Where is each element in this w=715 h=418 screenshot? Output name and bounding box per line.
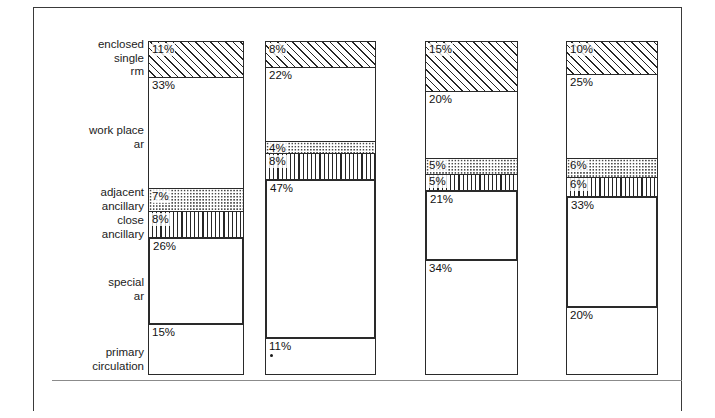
bar-1-segment-work-place-ar[interactable]: 33% [148,77,244,189]
segment-fill-plain [149,78,243,188]
bar-2-segment-work-place-ar[interactable]: 22% [265,67,376,142]
segment-value-label: 33% [152,79,176,92]
segment-value-label: 33% [571,199,595,212]
bar-4-segment-close-ancillary[interactable]: 6% [566,177,658,197]
bar-1-segment-close-ancillary[interactable]: 8% [148,211,244,238]
segment-value-label: 15% [429,43,453,56]
segment-value-label: 15% [152,326,176,339]
bar-2-segment-enclosed-single-rm[interactable]: 8% [265,41,376,68]
stacked-bar-plot: 11%33%7%8%26%15%8%22%4%8%47%11%15%20%5%5… [0,0,715,418]
segment-value-label: 11% [152,43,175,56]
bar-3-segment-primary-circulation[interactable]: 34% [425,260,518,375]
segment-value-label: 6% [570,159,588,172]
segment-value-label: 8% [269,155,287,168]
segment-value-label: 8% [269,43,287,56]
segment-fill-plain [267,181,374,336]
bar-2-segment-close-ancillary[interactable]: 8% [265,153,376,180]
segment-value-label: 5% [429,159,447,172]
bar-3-segment-work-place-ar[interactable]: 20% [425,91,518,159]
segment-value-label: 22% [269,69,293,82]
segment-value-label: 34% [429,262,453,275]
segment-value-label: 25% [570,76,594,89]
bar-3-segment-close-ancillary[interactable]: 5% [425,174,518,191]
bar-3-segment-special-ar[interactable]: 21% [425,190,518,261]
segment-value-label: 20% [429,93,453,106]
bar-4-segment-adjacent-ancillary[interactable]: 6% [566,158,658,178]
stacked-bar-3[interactable]: 15%20%5%5%21%34% [425,41,518,380]
bar-4-segment-primary-circulation[interactable]: 20% [566,307,658,375]
segment-value-label: 20% [570,309,594,322]
segment-value-label: 8% [152,213,170,226]
segment-fill-plain [426,261,517,374]
bar-2-segment-adjacent-ancillary[interactable]: 4% [265,141,376,155]
bar-4-segment-enclosed-single-rm[interactable]: 10% [566,41,658,75]
stacked-bar-2[interactable]: 8%22%4%8%47%11% [265,41,376,380]
segment-value-label: 6% [570,178,588,191]
bar-3-segment-adjacent-ancillary[interactable]: 5% [425,158,518,175]
segment-value-label: 5% [429,175,447,188]
bar-1-segment-enclosed-single-rm[interactable]: 11% [148,41,244,78]
segment-value-label: 47% [270,182,294,195]
stacked-bar-4[interactable]: 10%25%6%6%33%20% [566,41,658,380]
bar-4-segment-special-ar[interactable]: 33% [566,196,658,308]
stacked-bar-1[interactable]: 11%33%7%8%26%15% [148,41,244,380]
bar-2-segment-special-ar[interactable]: 47% [265,179,376,338]
segment-value-label: 21% [430,193,454,206]
segment-value-label: 10% [570,43,594,56]
segment-value-label: 4% [269,142,287,155]
segment-value-label: 26% [153,240,177,253]
bar-1-segment-primary-circulation[interactable]: 15% [148,324,244,375]
bar-2-segment-primary-circulation[interactable]: 11% [265,338,376,375]
bar-1-segment-special-ar[interactable]: 26% [148,237,244,325]
footnote-dot-marker [270,354,273,357]
bar-1-segment-adjacent-ancillary[interactable]: 7% [148,188,244,212]
segment-fill-plain [568,198,656,306]
segment-value-label: 7% [152,190,170,203]
bar-3-segment-enclosed-single-rm[interactable]: 15% [425,41,518,92]
segment-value-label: 11% [269,340,292,353]
diagram-page: enclosed single rmwork place aradjacent … [0,0,715,418]
bar-4-segment-work-place-ar[interactable]: 25% [566,74,658,159]
